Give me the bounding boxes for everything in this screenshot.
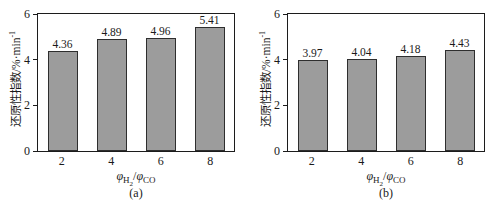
x-tick-label: 4: [337, 155, 387, 168]
bar-slot: 4.89: [87, 14, 136, 151]
y-tick-label: 2: [274, 99, 280, 111]
y-tick-mark: [283, 59, 288, 60]
y-tick-mark: [33, 14, 38, 15]
bar-value-label: 4.18: [400, 43, 420, 55]
bar-slot: 4.18: [386, 14, 435, 151]
subplot-caption: (b): [287, 186, 485, 200]
y-tick-mark: [33, 105, 38, 106]
bar-slot: 4.43: [435, 14, 484, 151]
x-tick-labels: 2468: [37, 155, 235, 168]
y-axis-label-text: 还原性指数/%·min: [260, 38, 272, 128]
y-tick-label: 6: [24, 8, 30, 20]
bar: 5.41: [195, 27, 225, 151]
y-tick-mark: [283, 14, 288, 15]
y-tick-label: 4: [274, 54, 280, 66]
y-tick-mark: [33, 59, 38, 60]
bar-value-label: 4.89: [101, 26, 121, 38]
bars-group: 3.974.044.184.43: [288, 14, 484, 151]
y-axis-label-superscript: -1: [258, 31, 267, 38]
h2-subscript: H2: [373, 175, 383, 185]
y-axis-label: 还原性指数/%·min-1: [256, 9, 270, 149]
subplot-caption: (a): [37, 186, 235, 200]
bar-value-label: 4.43: [449, 37, 469, 49]
bar-value-label: 3.97: [302, 47, 322, 59]
bar-slot: 5.41: [185, 14, 234, 151]
y-tick-label: 0: [24, 145, 30, 157]
bar: 4.18: [396, 56, 426, 151]
y-tick-label: 0: [274, 145, 280, 157]
y-tick-mark: [283, 105, 288, 106]
bar-value-label: 4.36: [52, 38, 72, 50]
y-tick-label: 2: [24, 99, 30, 111]
bar: 4.96: [146, 38, 176, 151]
y-axis-label: 还原性指数/%·min-1: [6, 9, 20, 149]
dual-bar-chart-figure: 还原性指数/%·min-1 4.364.894.965.41 0246 2468…: [0, 0, 500, 206]
co-subscript: CO: [143, 175, 156, 185]
x-tick-label: 2: [37, 155, 87, 168]
bar-value-label: 4.96: [150, 25, 170, 37]
x-tick-label: 2: [287, 155, 337, 168]
y-tick-label: 4: [24, 54, 30, 66]
bar: 4.43: [445, 50, 475, 151]
x-tick-labels: 2468: [287, 155, 485, 168]
plot-area: 4.364.894.965.41 0246: [37, 13, 235, 152]
bar: 4.36: [48, 51, 78, 151]
co-subscript: CO: [393, 175, 406, 185]
bar-slot: 4.96: [136, 14, 185, 151]
bars-group: 4.364.894.965.41: [38, 14, 234, 151]
bar: 4.04: [347, 59, 377, 151]
x-tick-label: 4: [87, 155, 137, 168]
x-tick-label: 8: [436, 155, 486, 168]
y-tick-mark: [283, 151, 288, 152]
bar: 3.97: [298, 60, 328, 151]
y-tick-mark: [33, 151, 38, 152]
bar-slot: 4.04: [337, 14, 386, 151]
h2-subscript: H2: [123, 175, 133, 185]
bar-slot: 3.97: [288, 14, 337, 151]
x-tick-label: 8: [186, 155, 236, 168]
y-tick-label: 6: [274, 8, 280, 20]
bar-value-label: 4.04: [351, 46, 371, 58]
bar-value-label: 5.41: [199, 14, 219, 26]
x-tick-label: 6: [136, 155, 186, 168]
x-tick-label: 6: [386, 155, 436, 168]
chart-panel-b: 还原性指数/%·min-1 3.974.044.184.43 0246 2468…: [250, 0, 500, 206]
bar-slot: 4.36: [38, 14, 87, 151]
y-axis-label-text: 还原性指数/%·min: [10, 38, 22, 128]
y-axis-label-superscript: -1: [8, 31, 17, 38]
bar: 4.89: [97, 39, 127, 151]
plot-area: 3.974.044.184.43 0246: [287, 13, 485, 152]
chart-panel-a: 还原性指数/%·min-1 4.364.894.965.41 0246 2468…: [0, 0, 250, 206]
